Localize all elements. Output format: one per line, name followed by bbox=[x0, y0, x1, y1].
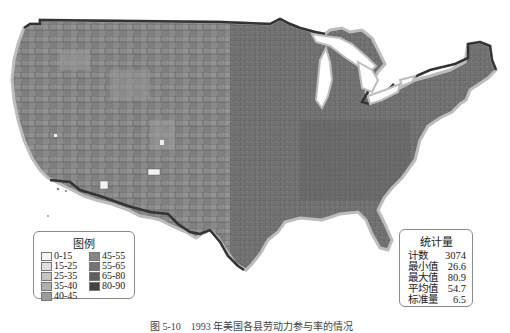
legend-swatch bbox=[89, 252, 100, 261]
legend-swatch bbox=[89, 272, 100, 281]
legend-item: 40-45 bbox=[41, 291, 77, 301]
statistics-title: 统计量 bbox=[400, 233, 472, 249]
legend-swatch bbox=[41, 272, 52, 281]
stat-value: 3074 bbox=[445, 250, 466, 261]
legend-title: 图例 bbox=[34, 235, 134, 251]
legend-label: 40-45 bbox=[54, 290, 77, 301]
stat-row-min: 最小值 26.6 bbox=[408, 261, 466, 272]
legend-swatch bbox=[89, 262, 100, 271]
legend-swatch bbox=[89, 282, 100, 291]
stat-row-mean: 平均值 54.7 bbox=[408, 283, 466, 294]
stat-row-std: 标准量 6.5 bbox=[408, 294, 466, 305]
stat-row-max: 最大值 80.9 bbox=[408, 272, 466, 283]
stat-label: 最大值 bbox=[408, 272, 438, 283]
legend-box: 图例 0-15 15-25 25-35 35-40 40-45 45-55 55… bbox=[33, 231, 135, 299]
stat-label: 最小值 bbox=[408, 261, 438, 272]
stat-value: 80.9 bbox=[448, 272, 466, 283]
stat-label: 平均值 bbox=[408, 283, 438, 294]
legend-label: 80-90 bbox=[102, 280, 125, 291]
legend-swatch bbox=[41, 292, 52, 301]
figure-caption: 图 5-10 1993 年美国各县劳动力参与率的情况 bbox=[150, 318, 353, 333]
legend-swatch bbox=[41, 262, 52, 271]
stat-label: 计数 bbox=[408, 250, 428, 261]
legend-item: 80-90 bbox=[89, 281, 125, 291]
legend-swatch bbox=[41, 252, 52, 261]
stat-label: 标准量 bbox=[408, 294, 438, 305]
stat-value: 54.7 bbox=[448, 283, 466, 294]
legend-swatch bbox=[41, 282, 52, 291]
stat-value: 6.5 bbox=[453, 294, 466, 305]
stat-value: 26.6 bbox=[448, 261, 466, 272]
stat-row-count: 计数 3074 bbox=[408, 250, 466, 261]
statistics-box: 统计量 计数 3074 最小值 26.6 最大值 80.9 平均值 54.7 标… bbox=[399, 229, 473, 307]
